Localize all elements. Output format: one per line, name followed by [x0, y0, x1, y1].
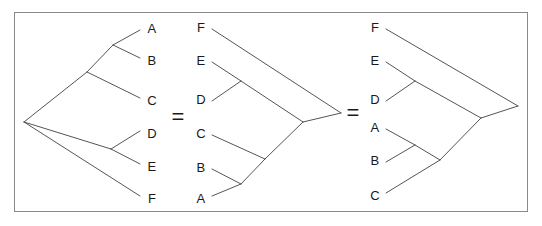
tree-middle-tip-label-f: F [197, 21, 205, 34]
figure-root: ABCDEFFEDCBAFEDABC == [0, 0, 542, 226]
tree-left-tip-label-a: A [148, 22, 157, 35]
tree-left-tip-label-b: B [148, 54, 157, 67]
tree-right-tip-label-e: E [371, 54, 380, 67]
tree-right-branch-to-D [386, 81, 415, 101]
cladogram-canvas [0, 0, 542, 226]
tree-edges-layer [24, 29, 518, 196]
equals-sign-1: = [172, 106, 185, 128]
tree-right-branch-to-A [386, 129, 415, 145]
tree-middle-branch-edc-bac [265, 122, 303, 159]
tree-middle-tip-label-e: E [197, 54, 206, 67]
tree-right-branch-root-edab [481, 106, 518, 118]
tree-middle-branch-to-B [212, 169, 241, 184]
tree-middle-branch-bac-ba [241, 159, 265, 184]
tree-left-branch-abc-ab [87, 45, 113, 72]
tree-right-tip-label-f: F [371, 21, 379, 34]
tree-right-branch-to-C [386, 160, 440, 193]
tree-left-branch-to-F [24, 122, 140, 196]
tree-left-tip-label-c: C [147, 94, 157, 107]
tree-left-tip-label-e: E [148, 160, 157, 173]
tree-left-branch-root-abc [24, 72, 87, 122]
tree-middle-branch-root-edc [303, 113, 341, 122]
tree-middle-tip-label-b: B [197, 161, 206, 174]
tree-left-branch-to-A [113, 30, 140, 45]
tree-left-tip-label-d: D [147, 127, 157, 140]
tree-right-branch-edab-abc [440, 118, 481, 160]
tree-right-tip-label-a: A [371, 121, 380, 134]
tree-right-tip-label-b: B [371, 154, 380, 167]
tree-left [24, 30, 140, 196]
tree-left-branch-root-de [24, 122, 111, 149]
equals-sign-2: = [347, 102, 360, 124]
tree-middle [212, 29, 341, 196]
tree-middle-branch-to-A [212, 184, 241, 196]
tree-middle-branch-edc-ed [241, 81, 303, 122]
tree-middle-branch-to-E [212, 62, 241, 81]
tree-right-branch-to-E [386, 62, 415, 81]
tree-middle-branch-to-C [212, 135, 265, 159]
tree-middle-tip-label-c: C [196, 127, 206, 140]
tree-middle-branch-to-F [212, 29, 341, 113]
tree-left-branch-to-B [113, 45, 140, 58]
tree-right-branch-abc-ab [415, 145, 440, 160]
tree-left-tip-label-f: F [148, 192, 156, 205]
tree-middle-tip-label-a: A [197, 192, 206, 205]
tree-right-branch-to-B [386, 145, 415, 162]
tree-middle-branch-to-D [212, 81, 241, 101]
tree-right-branch-edab-ed [415, 81, 481, 118]
tree-right-branch-to-F [386, 29, 518, 106]
tree-right [386, 29, 518, 193]
tree-middle-tip-label-d: D [196, 93, 206, 106]
tree-left-branch-to-D [111, 131, 140, 149]
tree-left-branch-to-E [111, 149, 140, 164]
tree-right-tip-label-c: C [370, 189, 380, 202]
tree-right-tip-label-d: D [370, 93, 380, 106]
tree-left-branch-to-C [87, 72, 140, 98]
